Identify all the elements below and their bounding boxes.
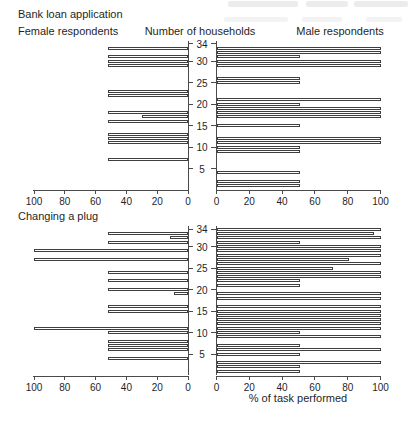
x-tick (34, 190, 35, 194)
x-tick (126, 190, 127, 194)
y-tick-left (188, 354, 193, 355)
x-tick (64, 190, 65, 194)
chart-page: Bank loan application Changing a plug Fe… (0, 0, 410, 423)
x-tick-label: 100 (372, 382, 389, 393)
x-tick-label: 60 (90, 382, 101, 393)
bar-male (217, 103, 301, 106)
bar-male (217, 141, 381, 144)
y-tick-label: 34 (196, 38, 207, 49)
bar-male (217, 55, 301, 58)
bar-female (108, 47, 188, 50)
y-tick-label: 15 (196, 306, 207, 317)
bar-female (108, 241, 188, 244)
x-tick (314, 376, 315, 380)
bar-female (108, 158, 188, 161)
y-tick-left (188, 104, 193, 105)
chart-title-bottom: Changing a plug (18, 210, 98, 222)
x-tick-label: 40 (277, 196, 288, 207)
x-axis-left-panel (33, 376, 188, 377)
bar-female (108, 55, 188, 58)
scan-artifact (354, 1, 408, 7)
x-tick (380, 376, 381, 380)
bar-male (217, 258, 350, 261)
y-tick-right (211, 332, 216, 333)
x-tick (188, 190, 189, 194)
x-tick-label: 20 (152, 382, 163, 393)
bar-female (174, 292, 188, 295)
x-tick-label: 60 (309, 196, 320, 207)
bar-male (217, 353, 301, 356)
bar-female (108, 310, 188, 313)
bar-male (217, 77, 301, 80)
y-tick-left (188, 289, 193, 290)
x-tick-label: 80 (342, 382, 353, 393)
y-tick-right (211, 354, 216, 355)
y-tick-label: 10 (196, 327, 207, 338)
x-tick-label: 100 (26, 382, 43, 393)
x-tick-label: 80 (342, 196, 353, 207)
y-tick-left (188, 168, 193, 169)
y-tick-right (211, 125, 216, 126)
y-tick-left (188, 246, 193, 247)
x-tick (216, 190, 217, 194)
x-tick (34, 376, 35, 380)
bar-male (217, 284, 301, 287)
x-tick (347, 190, 348, 194)
bar-female (108, 94, 188, 97)
bar-male (217, 344, 301, 347)
x-tick-label: 100 (26, 196, 43, 207)
y-tick-right (211, 229, 216, 230)
bar-female (170, 236, 188, 239)
y-tick-left (188, 43, 193, 44)
bar-male (217, 262, 381, 265)
bar-male (217, 365, 301, 368)
bar-male (217, 267, 333, 270)
x-tick-label: 80 (59, 196, 70, 207)
bar-female (108, 344, 188, 347)
bar-male (217, 305, 381, 308)
scan-artifact (306, 1, 348, 7)
bar-male (217, 98, 381, 101)
bar-male (217, 184, 301, 187)
y-tick-label: 30 (196, 56, 207, 67)
y-tick-label: 30 (196, 241, 207, 252)
bar-male (217, 51, 381, 54)
bar-female (108, 271, 188, 274)
y-tick-right (211, 147, 216, 148)
y-tick-left (188, 125, 193, 126)
x-axis-right-panel (216, 376, 382, 377)
bar-male (217, 279, 301, 282)
female-respondents-label: Female respondents (18, 25, 118, 37)
bar-male (217, 171, 301, 174)
bar-female (108, 357, 188, 360)
x-tick-label: 40 (121, 382, 132, 393)
y-tick-right (211, 246, 216, 247)
bar-female (108, 340, 188, 343)
bar-female (142, 115, 188, 118)
bar-male (217, 228, 381, 231)
male-respondents-label: Male respondents (296, 25, 383, 37)
scan-artifact (302, 17, 342, 22)
bar-male (217, 47, 381, 50)
y-tick-right (211, 268, 216, 269)
scan-artifact (224, 17, 288, 22)
bar-female (108, 111, 188, 114)
bar-male (217, 331, 301, 334)
bar-female (108, 60, 188, 63)
y-tick-left (188, 229, 193, 230)
scan-artifact (366, 17, 402, 22)
bar-male (217, 124, 301, 127)
bar-female (108, 141, 188, 144)
bar-female (108, 90, 188, 93)
x-tick (282, 376, 283, 380)
x-axis-caption: % of task performed (249, 392, 347, 404)
y-tick-label: 5 (199, 163, 205, 174)
bar-male (217, 146, 301, 149)
bar-female (108, 288, 188, 291)
y-tick-right (211, 61, 216, 62)
bar-male (217, 297, 381, 300)
x-tick (157, 190, 158, 194)
bar-female (108, 137, 188, 140)
bar-male (217, 64, 381, 67)
y-tick-right (211, 311, 216, 312)
